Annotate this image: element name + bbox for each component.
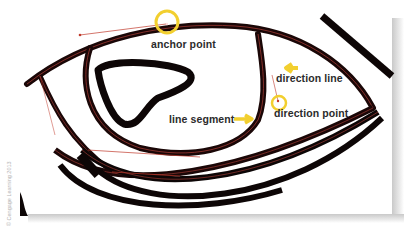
anchor-point-label: anchor point xyxy=(151,38,216,50)
diagram-canvas: anchor point direction line direction po… xyxy=(0,0,417,231)
line-segment-label: line segment xyxy=(169,113,234,125)
image-credit: © Cengage Learning 2013 xyxy=(6,156,12,226)
direction-line-label: direction line xyxy=(276,72,343,84)
direction-point-label: direction point xyxy=(274,107,348,119)
